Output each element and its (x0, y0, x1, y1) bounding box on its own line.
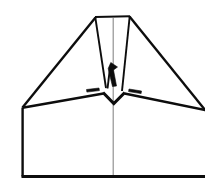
paper-airplane-drawing: Paper airplane line drawing (0, 0, 205, 186)
figure-root: Paper airplane line drawing (0, 0, 205, 186)
nose-top-edge (95, 16, 130, 17)
